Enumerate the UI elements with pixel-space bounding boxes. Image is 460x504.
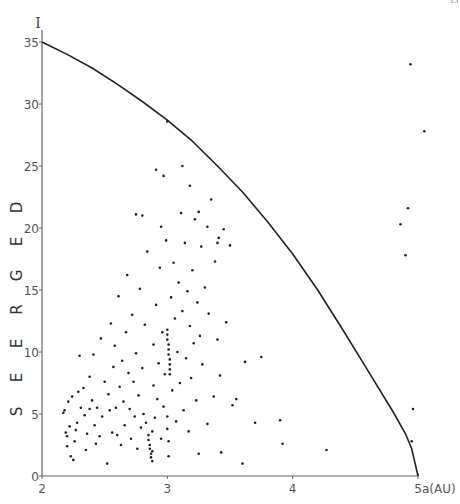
data-point — [131, 314, 134, 317]
data-point — [157, 362, 160, 365]
data-point — [68, 425, 71, 428]
data-point — [137, 394, 140, 397]
data-point — [160, 226, 163, 229]
boundary-curve-line — [42, 42, 418, 476]
data-point — [160, 438, 163, 441]
x-tick-label: 5 — [414, 482, 422, 496]
data-point — [161, 331, 164, 334]
y-axis-symbol: I — [35, 15, 41, 31]
data-point — [166, 415, 169, 418]
data-point — [122, 400, 125, 403]
x-tick-label: 4 — [289, 482, 297, 496]
y-tick-label: 25 — [24, 160, 39, 174]
data-point — [169, 363, 172, 366]
data-point — [399, 223, 402, 226]
data-point — [186, 290, 189, 293]
data-point — [115, 407, 118, 410]
data-point — [167, 348, 170, 351]
data-point — [66, 445, 69, 448]
data-point — [206, 226, 209, 229]
data-point — [151, 460, 154, 463]
data-point — [177, 281, 180, 284]
data-point — [260, 356, 263, 359]
data-point — [136, 447, 139, 450]
y-axis-label-letter: R — [0, 303, 34, 314]
data-point — [169, 368, 172, 371]
data-point — [407, 207, 410, 210]
data-point — [71, 395, 74, 398]
data-point — [112, 366, 115, 369]
data-point — [279, 419, 282, 422]
data-point — [214, 260, 217, 263]
data-point — [147, 439, 150, 442]
data-point — [184, 242, 187, 245]
data-point — [170, 296, 173, 299]
data-point — [73, 440, 76, 443]
data-point — [149, 444, 152, 447]
data-point — [412, 408, 415, 411]
data-point — [167, 455, 170, 458]
data-point — [121, 359, 124, 362]
data-point — [118, 385, 121, 388]
y-tick-label: 35 — [24, 36, 39, 50]
y-axis-label-letter: E — [0, 236, 34, 246]
data-point — [229, 244, 232, 247]
data-point — [179, 382, 182, 385]
data-point — [167, 440, 170, 443]
data-point — [201, 363, 204, 366]
data-point — [156, 398, 159, 401]
data-point — [196, 301, 199, 304]
data-point — [155, 168, 158, 171]
data-point — [171, 389, 174, 392]
data-point — [212, 395, 215, 398]
data-point — [217, 237, 220, 240]
data-point — [164, 373, 167, 376]
y-tick-label: 15 — [24, 284, 39, 298]
y-axis-label-letter: E — [0, 372, 34, 382]
y-axis-label-letter: G — [0, 269, 34, 282]
data-point — [152, 384, 155, 387]
data-point — [159, 266, 162, 269]
data-point — [175, 420, 178, 423]
data-point — [150, 452, 153, 455]
data-point — [165, 239, 168, 242]
y-tick-label: 20 — [24, 222, 39, 236]
data-point — [142, 413, 145, 416]
data-point — [144, 323, 147, 326]
data-point — [106, 462, 109, 465]
data-point — [410, 440, 413, 443]
data-point — [130, 438, 133, 441]
data-point — [169, 373, 172, 376]
data-point — [154, 416, 157, 419]
data-point — [123, 424, 126, 427]
data-point — [167, 353, 170, 356]
data-point — [140, 426, 143, 429]
data-point — [155, 304, 158, 307]
data-point — [190, 377, 193, 380]
data-point — [151, 430, 154, 433]
axis-labels: 051015202530352345a(AU)I — [24, 15, 456, 496]
data-point — [199, 335, 202, 338]
data-point — [100, 337, 103, 340]
data-point — [404, 254, 407, 257]
data-point — [141, 367, 144, 370]
data-point — [162, 405, 165, 408]
data-point — [220, 451, 223, 454]
boundary-curve — [42, 42, 418, 476]
data-point — [65, 431, 68, 434]
data-point — [423, 130, 426, 133]
data-point — [96, 407, 99, 410]
data-point — [151, 450, 154, 453]
data-point — [86, 433, 89, 436]
data-point — [98, 435, 101, 438]
data-point — [95, 443, 98, 446]
data-point — [191, 269, 194, 272]
data-point — [216, 242, 219, 245]
data-point — [222, 228, 225, 231]
data-point — [92, 353, 95, 356]
data-point — [62, 412, 65, 415]
data-point — [210, 198, 213, 201]
data-point — [172, 261, 175, 264]
data-point — [200, 245, 203, 248]
data-points — [62, 63, 426, 465]
